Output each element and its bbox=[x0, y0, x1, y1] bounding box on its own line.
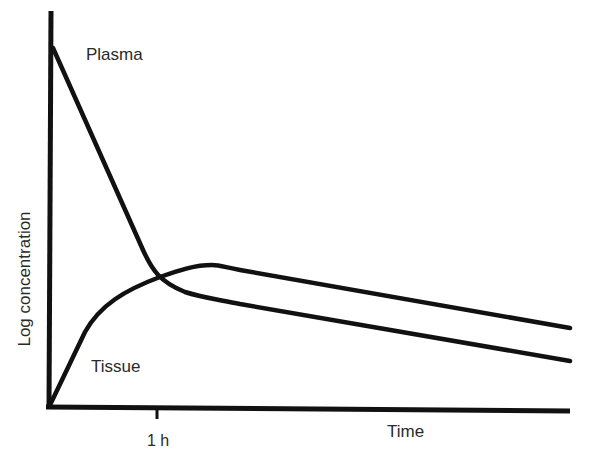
y-axis-label: Log concentration bbox=[15, 211, 34, 346]
pharmacokinetic-chart: Plasma Tissue Log concentration Time 1 h bbox=[0, 0, 592, 466]
y-axis bbox=[49, 11, 51, 408]
tissue-curve bbox=[50, 265, 570, 405]
x-axis-label: Time bbox=[387, 422, 424, 441]
tissue-label: Tissue bbox=[91, 357, 140, 376]
x-axis bbox=[46, 407, 570, 411]
plasma-label: Plasma bbox=[86, 45, 143, 64]
x-tick-label-1h: 1 h bbox=[147, 432, 169, 449]
